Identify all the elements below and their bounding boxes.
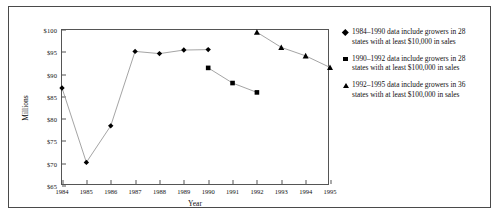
legend-line-2: states with at least $10,000 in sales xyxy=(352,37,466,47)
triangle-marker-glyph xyxy=(343,83,349,88)
y-tick-label: $85 xyxy=(47,93,62,100)
data-point-diamond xyxy=(84,160,89,165)
series-line xyxy=(257,32,330,67)
square-marker-glyph xyxy=(343,57,347,61)
data-point-diamond xyxy=(132,49,137,54)
plot-frame: $100$95$90$85$80$75$70$65 19841985198619… xyxy=(61,29,329,185)
data-point-diamond xyxy=(157,51,162,56)
legend-line-1: 1984–1990 data include growers in 28 xyxy=(352,27,466,37)
data-point-diamond xyxy=(181,47,186,52)
legend-item-label: 1984–1990 data include growers in 28stat… xyxy=(352,27,466,46)
y-tick-label: $75 xyxy=(47,138,62,145)
data-point-triangle xyxy=(303,53,309,59)
legend-item-label: 1992–1995 data include growers in 36stat… xyxy=(352,80,466,99)
data-point-triangle xyxy=(254,29,260,35)
y-tick-label: $90 xyxy=(47,71,62,78)
x-axis-title: Year xyxy=(188,199,202,208)
series-diamond xyxy=(59,47,211,165)
series-square xyxy=(206,66,259,95)
legend-line-1: 1992–1995 data include growers in 36 xyxy=(352,80,466,90)
legend: 1984–1990 data include growers in 28stat… xyxy=(342,27,494,107)
data-point-diamond xyxy=(205,47,210,52)
y-tick-label: $70 xyxy=(47,160,62,167)
data-point-diamond xyxy=(59,85,64,90)
data-point-triangle xyxy=(278,44,284,50)
legend-line-2: states with at least $100,000 in sales xyxy=(352,90,466,100)
chart-area: Millions Year $100$95$90$85$80$75$70$65 … xyxy=(9,7,339,209)
y-tick-label: $100 xyxy=(44,27,62,34)
series-line xyxy=(62,50,208,163)
legend-line-2: states with at least $100,000 in sales xyxy=(352,63,466,73)
square-marker-icon xyxy=(342,55,352,64)
chart-screenshot: Millions Year $100$95$90$85$80$75$70$65 … xyxy=(0,0,499,222)
series-line xyxy=(208,68,257,93)
y-axis-title: Millions xyxy=(21,95,30,120)
data-point-square xyxy=(206,66,211,71)
y-tick-label: $80 xyxy=(47,116,62,123)
triangle-marker-icon xyxy=(342,81,352,90)
x-tick-mark xyxy=(330,180,331,184)
legend-item: 1992–1995 data include growers in 36stat… xyxy=(342,80,494,99)
data-point-triangle xyxy=(327,64,333,70)
series-triangle xyxy=(254,29,333,70)
legend-line-1: 1990–1992 data include growers in 28 xyxy=(352,54,466,64)
legend-item-label: 1990–1992 data include growers in 28stat… xyxy=(352,54,466,73)
data-point-square xyxy=(255,90,260,95)
legend-item: 1990–1992 data include growers in 28stat… xyxy=(342,54,494,73)
y-tick-label: $95 xyxy=(47,49,62,56)
diamond-marker-glyph xyxy=(342,29,348,35)
legend-item: 1984–1990 data include growers in 28stat… xyxy=(342,27,494,46)
data-point-square xyxy=(230,81,235,86)
data-point-diamond xyxy=(108,123,113,128)
diamond-marker-icon xyxy=(342,28,352,37)
figure-border: Millions Year $100$95$90$85$80$75$70$65 … xyxy=(8,6,491,208)
data-series-layer xyxy=(62,30,330,186)
